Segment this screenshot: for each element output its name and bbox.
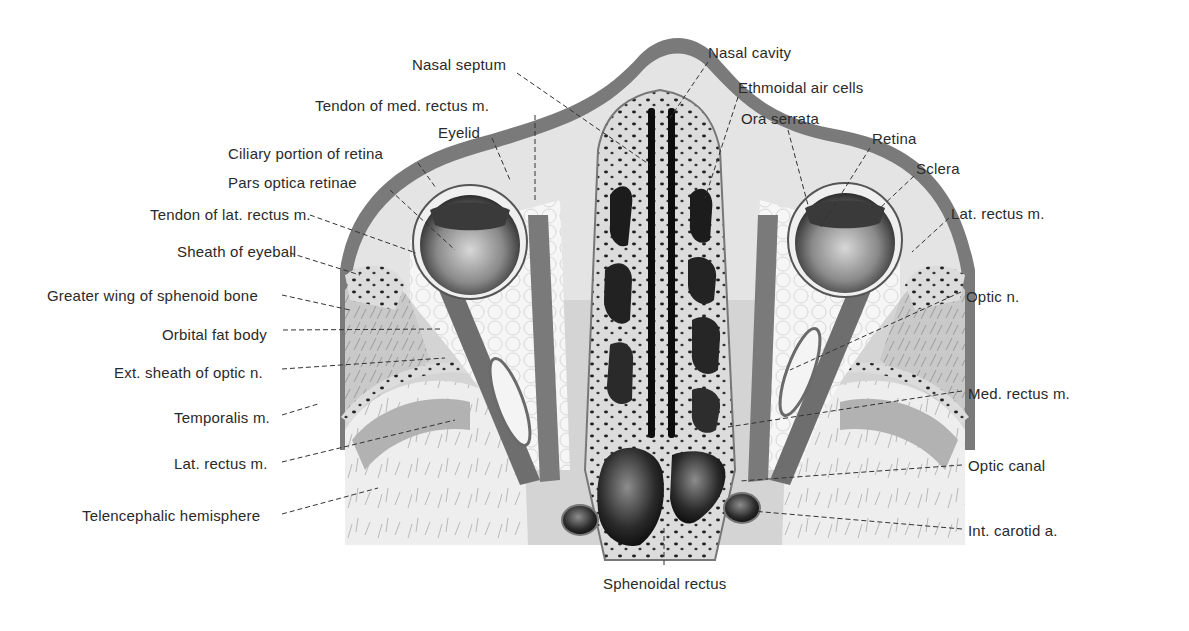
label-lat-rectus-right: Lat. rectus m. [951,205,1045,223]
label-telencephalic: Telencephalic hemisphere [82,507,260,525]
label-greater-wing: Greater wing of sphenoid bone [47,287,258,305]
label-int-carotid: Int. carotid a. [968,522,1058,540]
label-nasal-cavity: Nasal cavity [708,44,791,62]
label-med-rectus: Med. rectus m. [968,385,1070,403]
label-sheath-eyeball: Sheath of eyeball [177,243,296,261]
label-sclera: Sclera [916,160,960,178]
nasal-block [585,90,735,560]
leader-greater-wing [282,295,350,310]
eyeball-left [413,185,527,299]
label-orbital-fat: Orbital fat body [162,326,267,344]
label-pars-optica: Pars optica retinae [228,174,357,192]
eyeball-right [788,183,902,297]
anatomy-figure: Tendon of med. rectus m. Eyelid Ciliary … [0,0,1189,631]
int-carotid-right [724,493,760,523]
int-carotid-left [562,505,598,535]
label-optic-n: Optic n. [966,288,1019,306]
label-lat-rectus-left: Lat. rectus m. [174,455,268,473]
label-eyelid: Eyelid [438,124,480,142]
label-sphenoidal: Sphenoidal rectus [603,575,726,593]
label-ethmoidal: Ethmoidal air cells [738,79,864,97]
label-tendon-lat-rectus: Tendon of lat. rectus m. [150,206,311,224]
label-temporalis: Temporalis m. [174,409,270,427]
label-ciliary-portion: Ciliary portion of retina [228,145,383,163]
leader-temporalis [282,404,318,415]
label-nasal-septum: Nasal septum [412,56,506,74]
label-optic-canal: Optic canal [968,457,1045,475]
label-ext-sheath-optic: Ext. sheath of optic n. [114,364,263,382]
label-retina: Retina [872,130,917,148]
label-tendon-med-rectus: Tendon of med. rectus m. [315,97,489,115]
label-ora-serrata: Ora serrata [741,110,819,128]
